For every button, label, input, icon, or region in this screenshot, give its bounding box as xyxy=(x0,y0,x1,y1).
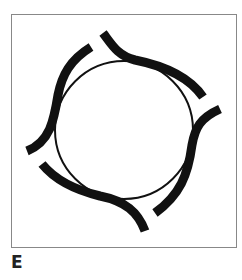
arc-left xyxy=(27,47,91,151)
diagram-figure xyxy=(0,0,242,280)
arc-right xyxy=(155,109,220,213)
arc-top-right xyxy=(103,33,203,97)
arc-bottom xyxy=(42,164,145,231)
center-circle xyxy=(55,61,193,199)
figure-label: E xyxy=(11,252,23,272)
